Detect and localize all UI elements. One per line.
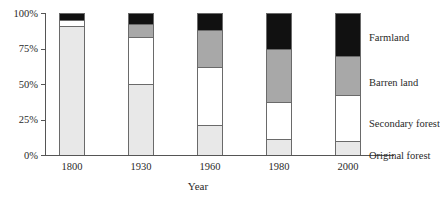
bar-segment-secondary-forest[interactable] [198,67,222,125]
bar-segment-secondary-forest[interactable] [129,37,153,84]
bar-segment-farmland[interactable] [198,13,222,30]
y-tick-label: 100% [0,8,38,19]
bar-segment-farmland[interactable] [60,13,84,20]
bar-segment-barren-land[interactable] [267,49,291,103]
x-tick-label: 1930 [111,161,171,173]
x-tick-label: 1960 [180,161,240,173]
bar-1980[interactable] [266,13,292,155]
bar-segment-original-forest[interactable] [60,26,84,155]
bar-segment-barren-land[interactable] [336,56,360,96]
legend-item-secondary-forest[interactable]: Secondary forest [369,118,440,130]
bar-segment-original-forest[interactable] [336,141,360,155]
plot-area [46,13,350,155]
bar-1930[interactable] [128,13,154,155]
y-tick-mark [41,155,46,156]
y-tick-label: 50% [0,79,38,90]
bar-segment-original-forest[interactable] [129,84,153,155]
legend-item-original-forest[interactable]: Original forest [369,150,431,162]
bar-1960[interactable] [197,13,223,155]
bar-segment-farmland[interactable] [336,13,360,56]
bar-segment-farmland[interactable] [129,13,153,24]
legend-item-barren-land[interactable]: Barren land [369,77,418,89]
y-tick-label: 0% [0,150,38,161]
bar-segment-farmland[interactable] [267,13,291,49]
bar-1800[interactable] [59,13,85,155]
y-tick-label: 75% [0,43,38,54]
bar-segment-original-forest[interactable] [198,125,222,155]
bar-segment-secondary-forest[interactable] [336,95,360,140]
x-axis-title: Year [46,180,350,192]
bar-2000[interactable] [335,13,361,155]
x-tick-label: 1980 [249,161,309,173]
x-axis-line [45,155,394,156]
bar-segment-original-forest[interactable] [267,139,291,155]
y-tick-label: 25% [0,114,38,125]
bar-segment-barren-land[interactable] [198,30,222,67]
legend-item-farmland[interactable]: Farmland [369,32,409,44]
bar-segment-barren-land[interactable] [129,24,153,37]
x-tick-label: 1800 [42,161,102,173]
chart-legend: FarmlandBarren landSecondary forestOrigi… [369,0,439,204]
bar-segment-secondary-forest[interactable] [267,102,291,139]
